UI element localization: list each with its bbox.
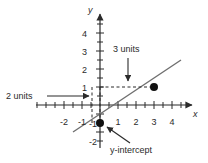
y-axis-label: y [88, 6, 93, 15]
x-tick-label-4: 4 [169, 118, 174, 127]
y-tick-label-2: 2 [82, 66, 87, 75]
x-tick-label-neg1: -1 [78, 118, 86, 127]
graph-canvas [0, 0, 208, 163]
y-intercept-annotation-label: y-intercept [110, 146, 152, 155]
run-annotation-label: 2 units [6, 92, 33, 101]
y-axis [96, 14, 104, 148]
point-y-intercept [96, 119, 104, 127]
coordinate-plane-figure: y x 4 3 2 1 -1 -2 -2 -1 1 2 3 4 3 units … [0, 0, 208, 163]
x-tick-label-1: 1 [115, 118, 120, 127]
y-tick-label-3: 3 [82, 48, 87, 57]
y-tick-label-4: 4 [82, 30, 87, 39]
y-tick-label-1: 1 [82, 84, 87, 93]
x-tick-label-3: 3 [151, 118, 156, 127]
point-three-one [150, 83, 158, 91]
y-intercept-arrow [107, 127, 130, 143]
x-tick-label-2: 2 [133, 118, 138, 127]
x-tick-label-neg2: -2 [60, 118, 68, 127]
rise-annotation-label: 3 units [113, 45, 140, 54]
x-axis-label: x [193, 110, 198, 119]
y-tick-label-neg2: -2 [89, 138, 97, 147]
y-tick-label-neg1: -1 [89, 120, 97, 129]
